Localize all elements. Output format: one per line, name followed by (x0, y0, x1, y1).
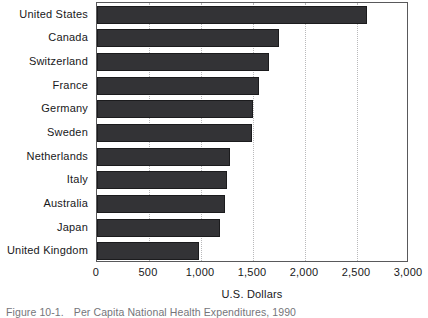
bar (97, 242, 199, 260)
category-label: Sweden (0, 126, 88, 138)
bar (97, 77, 259, 95)
x-tick-label: 2,500 (342, 266, 371, 279)
category-label: France (0, 79, 88, 91)
bar (97, 195, 225, 213)
bar (97, 53, 269, 71)
category-label: Canada (0, 31, 88, 43)
category-label: Switzerland (0, 55, 88, 67)
bar (97, 148, 230, 166)
bar (97, 219, 220, 237)
y-axis-category-labels: United StatesCanadaSwitzerlandFranceGerm… (0, 2, 92, 262)
x-tick-label: 1,500 (238, 266, 267, 279)
chart-plot-area (96, 2, 408, 262)
category-label: Australia (0, 197, 88, 209)
x-tick-label: 500 (139, 266, 158, 279)
figure-caption: Figure 10-1.Per Capita National Health E… (6, 306, 296, 318)
bar (97, 29, 279, 47)
x-tick-label: 0 (93, 266, 99, 279)
bar-series (97, 3, 407, 261)
category-label: Germany (0, 102, 88, 114)
bar (97, 171, 227, 189)
category-label: United States (0, 8, 88, 20)
category-label: Netherlands (0, 150, 88, 162)
x-axis-tick-labels: 05001,0001,5002,0002,5003,000 (0, 266, 428, 280)
x-tick-label: 3,000 (394, 266, 423, 279)
category-label: Italy (0, 173, 88, 185)
x-tick-label: 1,000 (186, 266, 215, 279)
category-label: Japan (0, 221, 88, 233)
category-label: United Kingdom (0, 244, 88, 256)
x-axis-title: U.S. Dollars (96, 288, 408, 301)
bar (97, 124, 252, 142)
figure-caption-number: Figure 10-1. (6, 306, 64, 318)
bar (97, 6, 367, 24)
bar (97, 100, 253, 118)
figure-container: United StatesCanadaSwitzerlandFranceGerm… (0, 0, 428, 318)
figure-caption-text: Per Capita National Health Expenditures,… (74, 306, 296, 318)
x-tick-label: 2,000 (290, 266, 319, 279)
